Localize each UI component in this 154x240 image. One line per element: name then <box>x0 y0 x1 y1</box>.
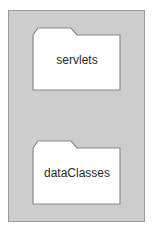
folder-label: dataClasses <box>32 166 122 180</box>
folder-label: servlets <box>32 53 122 67</box>
folder-dataClasses: dataClasses <box>32 140 122 206</box>
folder-servlets: servlets <box>32 27 122 92</box>
